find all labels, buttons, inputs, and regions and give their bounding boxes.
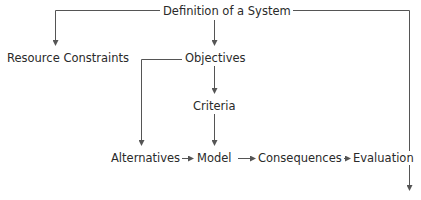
- node-criteria: Criteria: [191, 99, 238, 113]
- edge-objectives-alternatives: [142, 60, 183, 146]
- node-model: Model: [195, 151, 234, 165]
- node-consequences: Consequences: [256, 151, 344, 165]
- node-evaluation: Evaluation: [351, 151, 416, 165]
- node-definition-of-a-system: Definition of a System: [161, 4, 293, 18]
- node-alternatives: Alternatives: [109, 151, 182, 165]
- edge-definition-resource: [56, 11, 161, 46]
- node-resource-constraints: Resource Constraints: [5, 51, 131, 65]
- node-objectives: Objectives: [183, 51, 248, 65]
- system-analysis-diagram: Definition of a System Resource Constrai…: [0, 0, 421, 200]
